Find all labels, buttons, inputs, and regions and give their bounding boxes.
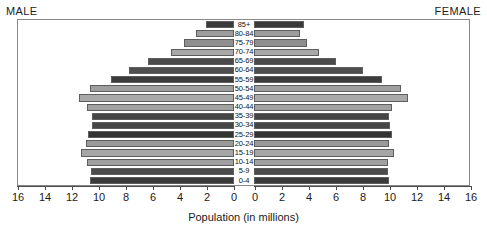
age-group-label-cell: 65-69 [234,57,254,66]
age-group-label: 35-39 [235,113,254,121]
female-bar [254,122,390,129]
pyramid-rows: 85+80-8475-7970-7465-6960-6455-5950-5445… [18,20,469,185]
female-bar-cell [254,75,469,84]
age-group-label: 0-4 [239,177,250,185]
plot-area: 85+80-8475-7970-7465-6960-6455-5950-5445… [17,19,470,186]
male-bar [148,58,234,65]
female-bar [254,159,388,166]
female-side-label: FEMALE [435,5,481,17]
female-bar-cell [254,130,469,139]
x-tick-mark [363,186,364,190]
x-tick-label: 12 [66,191,78,203]
male-bar [79,94,234,101]
pyramid-row: 15-19 [18,148,469,157]
x-axis-title: Population (in millions) [0,211,487,223]
female-bar-cell [254,112,469,121]
male-bar-cell [18,29,234,38]
female-bar [254,168,388,175]
male-bar-cell [18,176,234,185]
age-group-label: 70-74 [235,48,254,56]
male-bar-cell [18,112,234,121]
male-bar-cell [18,38,234,47]
male-bar-cell [18,148,234,157]
female-bar-cell [254,148,469,157]
female-bar-cell [254,57,469,66]
female-bar-cell [254,38,469,47]
female-bar [254,49,319,56]
age-group-label-cell: 10-14 [234,158,254,167]
age-group-label-cell: 85+ [234,20,254,29]
female-bar-cell [254,167,469,176]
male-bar [206,21,234,28]
male-bar-cell [18,48,234,57]
age-group-label: 60-64 [235,67,254,75]
x-tick-mark [99,186,100,190]
x-tick-mark [255,186,256,190]
x-tick-label: 14 [438,191,450,203]
age-group-label: 85+ [238,21,250,29]
female-bar-cell [254,158,469,167]
male-bar [91,168,234,175]
x-tick-label: 12 [411,191,423,203]
male-bar [87,104,234,111]
pyramid-row: 30-34 [18,121,469,130]
male-bar-cell [18,158,234,167]
x-tick-mark [234,186,235,190]
pyramid-row: 45-49 [18,93,469,102]
age-group-label-cell: 80-84 [234,29,254,38]
x-tick-mark [444,186,445,190]
male-bar [90,177,234,184]
male-bar-cell [18,139,234,148]
age-group-label: 80-84 [235,30,254,38]
age-group-label: 20-24 [235,140,254,148]
x-tick-mark [471,186,472,190]
age-group-label-cell: 5-9 [234,167,254,176]
male-bar-cell [18,103,234,112]
age-group-label-cell: 15-19 [234,148,254,157]
pyramid-row: 25-29 [18,130,469,139]
male-bar [129,67,234,74]
age-group-label-cell: 20-24 [234,139,254,148]
male-bar [92,122,234,129]
x-tick-mark [282,186,283,190]
x-tick-label: 16 [465,191,477,203]
female-bar [254,30,300,37]
x-tick-label: 2 [279,191,285,203]
age-group-label-cell: 30-34 [234,121,254,130]
female-bar-cell [254,139,469,148]
female-bar-cell [254,84,469,93]
age-group-label-cell: 0-4 [234,176,254,185]
female-bar-cell [254,29,469,38]
male-bar [184,39,234,46]
age-group-label: 30-34 [235,122,254,130]
age-group-label-cell: 35-39 [234,112,254,121]
female-bar-cell [254,66,469,75]
x-tick-mark [72,186,73,190]
age-group-label: 10-14 [235,158,254,166]
x-tick-mark [417,186,418,190]
x-tick-label: 0 [231,191,237,203]
female-bar [254,39,307,46]
female-bar [254,104,392,111]
x-tick-mark [153,186,154,190]
female-bar [254,76,382,83]
x-tick-label: 0 [252,191,258,203]
female-bar [254,67,363,74]
age-group-label: 50-54 [235,85,254,93]
x-tick-mark [390,186,391,190]
female-bar [254,131,392,138]
female-bar [254,140,389,147]
age-group-label-cell: 50-54 [234,84,254,93]
male-bar-cell [18,66,234,75]
pyramid-row: 80-84 [18,29,469,38]
male-bar [86,140,235,147]
female-bar [254,149,394,156]
female-bar-cell [254,93,469,102]
x-tick-label: 16 [12,191,24,203]
male-bar [87,159,234,166]
pyramid-row: 0-4 [18,176,469,185]
male-bar [111,76,234,83]
age-group-label-cell: 25-29 [234,130,254,139]
male-side-label: MALE [6,5,38,17]
male-bar-cell [18,57,234,66]
